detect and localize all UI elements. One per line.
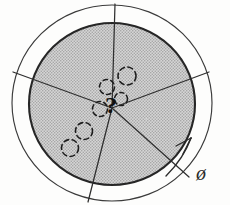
center-question-mark: ? [105, 93, 117, 117]
figure-canvas: ? ø [0, 0, 230, 205]
phi-angle-label: ø [196, 162, 206, 185]
